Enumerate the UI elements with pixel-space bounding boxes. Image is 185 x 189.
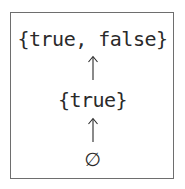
node-empty-set: ∅	[0, 148, 185, 170]
node-true-false-set: {true, false}	[0, 26, 185, 52]
arrow-up-icon	[0, 55, 185, 81]
arrow-up-icon	[0, 117, 185, 143]
node-true-set: {true}	[0, 87, 185, 113]
